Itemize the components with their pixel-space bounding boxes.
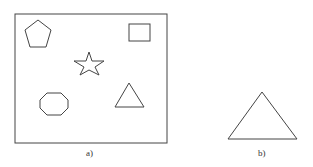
- octagon-shape: [40, 93, 68, 115]
- square-shape: [129, 24, 150, 41]
- panel-a-label: a): [86, 148, 93, 158]
- panel-a-frame: [15, 14, 167, 143]
- pentagon-shape: [25, 20, 51, 47]
- star-shape: [74, 52, 104, 75]
- triangle-shape: [115, 83, 144, 107]
- panel-b-triangle-shape: [228, 92, 297, 139]
- figure-canvas: [0, 0, 313, 167]
- panel-b-label: b): [258, 148, 266, 158]
